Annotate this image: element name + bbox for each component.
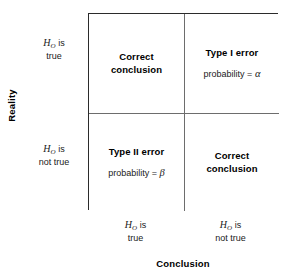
cell-correct-conclusion-top-left: Correct conclusion <box>89 14 184 113</box>
column-label-h0-true: HO is true <box>88 219 183 244</box>
cell-type-1-error: Type I error probability = α <box>184 14 279 113</box>
col-label-1-suffix: is <box>232 220 241 230</box>
beta-symbol: β <box>160 167 165 178</box>
cell-heading: Correct conclusion <box>206 150 257 175</box>
cell-type-2-error: Type II error probability = β <box>89 113 184 211</box>
cell-subtext: probability = α <box>204 68 261 80</box>
row-label-h0-not-true: HO is not true <box>22 143 86 168</box>
cell-heading: Correct conclusion <box>111 51 162 76</box>
row-label-1-suffix: is <box>56 144 65 154</box>
cell-heading: Type I error <box>206 47 259 60</box>
col-label-1-line2: not true <box>215 233 246 243</box>
h-null-symbol: HO <box>125 219 137 230</box>
cell-subtext-prefix: probability = <box>204 69 255 79</box>
h-null-symbol: HO <box>43 37 55 48</box>
col-label-0-line2: true <box>128 233 144 243</box>
h-null-symbol: HO <box>43 143 55 154</box>
y-axis-title-label: Reality <box>6 89 17 122</box>
row-label-1-line2: not true <box>39 157 70 167</box>
cell-correct-conclusion-bottom-right: Correct conclusion <box>184 113 279 211</box>
hypothesis-testing-decision-matrix: Reality HO is true HO is not true Correc… <box>0 0 293 280</box>
cell-heading: Type II error <box>109 146 165 159</box>
alpha-symbol: α <box>255 68 261 79</box>
row-label-h0-true: HO is true <box>22 37 86 62</box>
cell-subtext-prefix: probability = <box>108 168 159 178</box>
h-null-symbol: HO <box>220 219 232 230</box>
y-axis-title: Reality <box>0 0 22 210</box>
column-label-h0-not-true: HO is not true <box>183 219 278 244</box>
row-label-0-suffix: is <box>56 38 65 48</box>
matrix-grid: Correct conclusion Type I error probabil… <box>88 13 278 210</box>
x-axis-title: Conclusion <box>88 258 278 269</box>
cell-subtext: probability = β <box>108 167 165 179</box>
row-label-0-line2: true <box>46 51 62 61</box>
col-label-0-suffix: is <box>137 220 146 230</box>
